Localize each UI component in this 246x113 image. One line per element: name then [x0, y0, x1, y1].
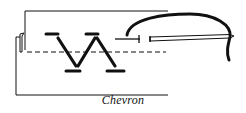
- needle-icon: [150, 35, 234, 43]
- fabric-outline: [16, 11, 168, 95]
- diagram-caption: Chevron: [0, 93, 246, 108]
- diagonal-stitches: [58, 38, 115, 66]
